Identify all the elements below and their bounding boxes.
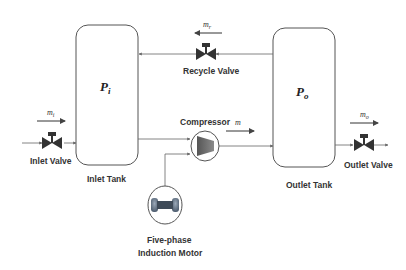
motor-label-line1: Five-phase	[147, 235, 192, 245]
recycle-valve-label: Recycle Valve	[183, 66, 240, 76]
recycle-flow-label: mr	[203, 20, 212, 30]
recycle-valve-icon[interactable]	[196, 43, 216, 60]
process-diagram: Pi Inlet Tank Po Outlet Tank Recycle Val…	[0, 0, 406, 270]
outlet-tank-label: Outlet Tank	[286, 180, 332, 190]
outlet-tank: Po	[273, 28, 335, 167]
inlet-valve-icon[interactable]	[42, 132, 62, 149]
compressor-icon[interactable]	[191, 131, 219, 161]
compressor-label: Compressor	[180, 117, 231, 127]
inlet-valve-label: Inlet Valve	[30, 156, 72, 166]
outlet-flow-label: mo	[360, 110, 369, 120]
outlet-valve-label: Outlet Valve	[344, 160, 393, 170]
inlet-flow-label: mi	[47, 108, 55, 118]
compressor-flow-label: m	[235, 118, 241, 127]
inlet-tank: Pi	[76, 25, 138, 165]
motor-label-line2: Induction Motor	[138, 248, 203, 258]
motor-icon[interactable]	[148, 186, 182, 224]
inlet-tank-label: Inlet Tank	[87, 174, 126, 184]
outlet-valve-icon[interactable]	[354, 134, 374, 151]
motor-shaft-line	[165, 154, 190, 187]
